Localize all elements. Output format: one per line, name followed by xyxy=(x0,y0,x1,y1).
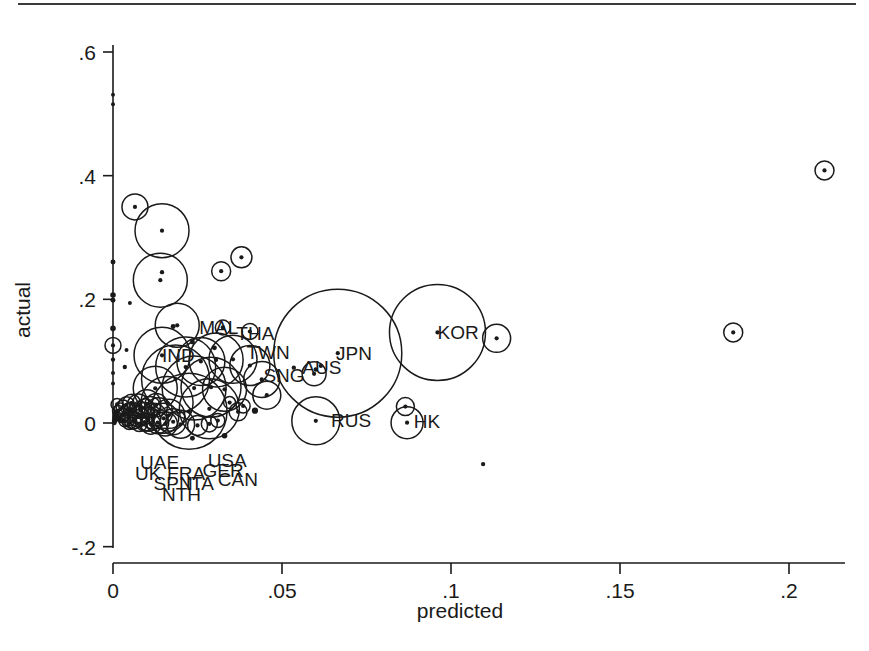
data-point-center-dot xyxy=(175,323,179,327)
data-point-dot xyxy=(110,292,116,298)
data-point-dot xyxy=(125,348,129,352)
data-point-center-dot xyxy=(179,422,183,426)
data-point-center-dot xyxy=(115,402,119,406)
data-point-center-dot xyxy=(216,418,220,422)
data-point-center-dot xyxy=(822,168,826,172)
data-point-center-dot xyxy=(153,386,157,390)
data-point-dot xyxy=(171,324,176,329)
data-point-center-dot xyxy=(239,255,243,259)
data-point-center-dot xyxy=(195,423,199,427)
scatter-plot-svg: .6.4.20-.2 0.05.1.15.2 MALTHATWNINDSNGAU… xyxy=(0,0,869,651)
data-point-dot xyxy=(252,408,258,414)
point-label: KOR xyxy=(437,322,478,343)
data-point-dot xyxy=(190,436,195,441)
y-tick-label: .6 xyxy=(78,41,96,64)
figure-container: .6.4.20-.2 0.05.1.15.2 MALTHATWNINDSNGAU… xyxy=(0,0,869,651)
data-point-center-dot xyxy=(133,205,137,209)
point-label: HK xyxy=(414,411,441,432)
y-tick-label: -.2 xyxy=(71,536,96,559)
data-point-dot xyxy=(481,462,485,466)
point-label: JPN xyxy=(336,343,372,364)
data-point-dot xyxy=(111,93,115,97)
data-point-dot xyxy=(212,345,217,350)
data-point-center-dot xyxy=(154,403,158,407)
data-point-center-dot xyxy=(219,269,223,273)
data-point-center-dot xyxy=(265,393,269,397)
y-axis-title: actual xyxy=(11,282,34,338)
data-point-center-dot xyxy=(111,343,115,347)
data-point-center-dot xyxy=(156,421,160,425)
data-point-center-dot xyxy=(158,278,162,282)
data-point-bubbles xyxy=(105,93,834,467)
data-point-center-dot xyxy=(405,421,409,425)
y-tick-label: .4 xyxy=(78,165,96,188)
point-label: CAN xyxy=(218,469,258,490)
data-point-dot xyxy=(111,381,115,385)
data-point-center-dot xyxy=(160,229,164,233)
data-point-dot xyxy=(111,371,115,375)
data-point-center-dot xyxy=(314,419,318,423)
point-label: IND xyxy=(162,345,195,366)
x-axis-title: predicted xyxy=(417,599,503,622)
data-point-dot xyxy=(123,365,127,369)
data-point-dot xyxy=(111,357,115,361)
point-label: RUS xyxy=(331,410,371,431)
point-label: NTH xyxy=(162,484,201,505)
data-point-center-dot xyxy=(403,405,407,409)
data-point-center-dot xyxy=(222,387,226,391)
data-point-center-dot xyxy=(192,386,196,390)
data-point-center-dot xyxy=(228,400,232,404)
data-point-center-dot xyxy=(731,330,735,334)
data-point-center-dot xyxy=(207,407,211,411)
data-point-dot xyxy=(111,298,116,303)
point-label: TWN xyxy=(247,342,290,363)
data-point-dot xyxy=(110,326,116,332)
data-point-center-dot xyxy=(148,405,152,409)
x-tick-label: .2 xyxy=(780,579,798,602)
point-label: SNG xyxy=(263,365,304,386)
data-point-center-dot xyxy=(149,422,153,426)
data-point-dot xyxy=(112,420,117,425)
data-point-center-dot xyxy=(495,336,499,340)
data-point-center-dot xyxy=(162,416,166,420)
x-tick-label: 0 xyxy=(107,579,119,602)
data-point-dot xyxy=(160,270,164,274)
data-point-dot xyxy=(111,259,116,264)
data-point-dot xyxy=(128,301,132,305)
y-tick-label: 0 xyxy=(84,412,96,435)
data-point-center-dot xyxy=(241,404,245,408)
point-label: MAL xyxy=(199,317,238,338)
y-tick-label: .2 xyxy=(78,288,96,311)
data-point-center-dot xyxy=(171,420,175,424)
x-axis-ticks: 0.05.1.15.2 xyxy=(107,563,798,602)
x-tick-label: .05 xyxy=(267,579,296,602)
x-tick-label: .15 xyxy=(605,579,634,602)
y-axis-ticks: .6.4.20-.2 xyxy=(71,41,113,559)
data-point-dot xyxy=(111,102,115,106)
data-point-center-dot xyxy=(209,385,213,389)
